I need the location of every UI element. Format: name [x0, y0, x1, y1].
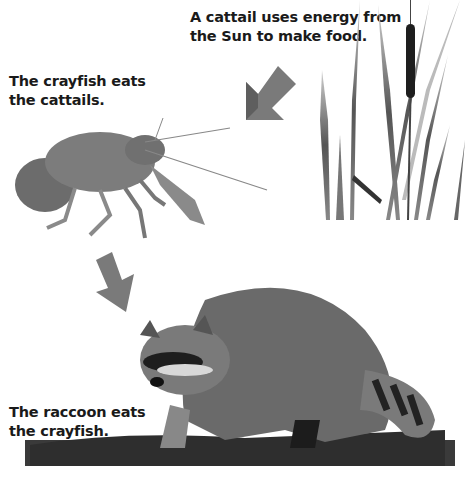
crayfish-image — [5, 110, 290, 245]
crayfish-caption-line-1: The crayfish eats — [9, 72, 146, 91]
cattail-image — [310, 0, 469, 225]
raccoon-image — [25, 270, 455, 470]
crayfish-caption-line-2: the cattails. — [9, 91, 146, 110]
crayfish-caption: The crayfish eats the cattails. — [9, 72, 146, 110]
